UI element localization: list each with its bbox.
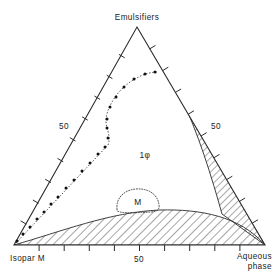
right-axis-ticks [150, 45, 258, 223]
scale-label-bottom-50: 50 [134, 255, 144, 264]
region-label-microemulsion: M [134, 197, 141, 207]
vertex-label-aqueous-line1: Aqueous [237, 252, 272, 261]
left-axis-ticks [21, 54, 125, 224]
scale-label-right-50: 50 [211, 122, 221, 131]
region-label-single-phase: 1φ [140, 150, 151, 160]
vertex-label-aqueous-line2: phase [248, 262, 272, 271]
ternary-phase-diagram: Emulsifiers Isopar M Aqueous phase 50 50… [0, 0, 279, 273]
vertex-label-isopar-m: Isopar M [10, 254, 45, 263]
ternary-diagram-svg: Emulsifiers Isopar M Aqueous phase 50 50… [0, 0, 279, 273]
bottom-axis-ticks [39, 245, 240, 251]
scale-label-left-50: 50 [59, 122, 69, 131]
vertex-label-emulsifiers: Emulsifiers [115, 13, 159, 22]
